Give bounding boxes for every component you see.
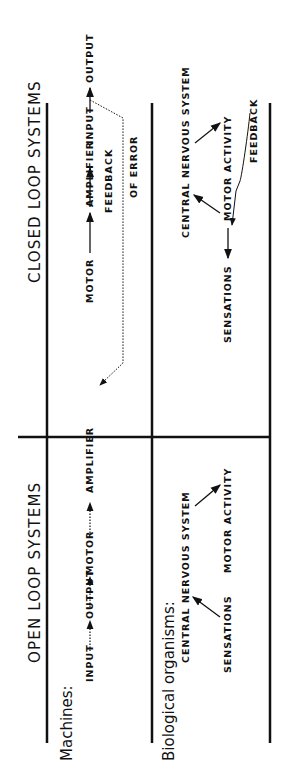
closed-motor-activity: MOTOR ACTIVITY [222,116,233,221]
open-sensations: SENSATIONS [222,595,233,673]
open-output: OUTPUT [84,570,95,619]
header-closed-loop: CLOSED LOOP SYSTEMS [26,80,44,283]
row-label-biological: Biological organisms: [160,601,178,761]
closed-feedback-of-error: OF ERROR [128,136,139,198]
closed-amplifier: AMPLIFIER [84,141,95,207]
closed-feedback-label: FEEDBACK [103,149,114,213]
closed-sensations: SENSATIONS [222,265,233,343]
closed-output: OUTPUT [84,34,95,83]
open-cns: CENTRAL NERVOUS SYSTEM [180,491,191,663]
open-input: INPUT [84,644,95,682]
closed-cns: CENTRAL NERVOUS SYSTEM [180,66,191,238]
row-label-machines: Machines: [58,685,76,761]
closed-feedback-bio: FEEDBACK [248,99,259,163]
open-arrow-sensations-cns [193,597,220,617]
loop-systems-diagram: OPEN LOOP SYSTEMS CLOSED LOOP SYSTEMS Ma… [0,0,282,773]
closed-arrow-sensations-cns [194,195,220,213]
header-open-loop: OPEN LOOP SYSTEMS [26,482,44,663]
closed-motor: MOTOR [84,259,95,303]
open-arrow-cns-motor [195,485,220,506]
closed-input: INPUT [84,106,95,144]
open-motor: MOTOR [84,531,95,575]
open-motor-activity: MOTOR ACTIVITY [222,468,233,573]
open-amplifier: AMPLIFIER [84,427,95,493]
closed-arrow-cns-motor [195,123,220,143]
